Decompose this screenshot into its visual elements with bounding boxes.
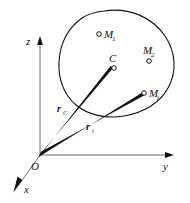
- vector-rC-shaft: [39, 66, 114, 158]
- z-axis: [37, 36, 43, 155]
- x-axis-label: x: [23, 183, 29, 195]
- y-axis-arrowhead: [165, 152, 174, 158]
- point-label-M1-subscript: 1: [112, 35, 116, 43]
- vector-ri-shaft: [39, 93, 145, 157]
- position-vectors: [39, 66, 145, 158]
- vector-label-rC-base: r: [57, 103, 61, 114]
- point-labels: M 1 M 2 C M i: [103, 28, 159, 102]
- point-label-Mi-subscript: i: [157, 94, 159, 102]
- point-label-M1: M 1: [103, 28, 116, 43]
- point-marker-M2: [147, 59, 152, 64]
- point-marker-Mi: [142, 91, 147, 96]
- figure-container: z y x O M 1: [0, 0, 190, 203]
- material-points: [97, 32, 152, 96]
- vector-label-ri-subscript: i: [92, 127, 94, 134]
- y-axis: [40, 152, 174, 158]
- y-axis-label: y: [162, 160, 168, 172]
- vector-label-ri: r i: [86, 121, 94, 134]
- point-label-C-base: C: [109, 52, 117, 64]
- vector-labels: r C r i: [57, 103, 94, 134]
- point-label-M2-subscript: 2: [151, 51, 155, 59]
- z-axis-label: z: [25, 35, 31, 47]
- x-axis-arrowhead: [14, 177, 23, 193]
- point-label-M2: M 2: [142, 44, 155, 59]
- position-vector-diagram: z y x O M 1: [0, 0, 190, 203]
- vector-label-rC: r C: [57, 103, 68, 116]
- point-label-Mi: M i: [148, 87, 159, 102]
- point-marker-C: [112, 66, 117, 71]
- origin-label: O: [31, 160, 39, 172]
- point-marker-M1: [97, 32, 102, 37]
- vector-label-ri-base: r: [86, 121, 90, 132]
- point-label-C: C: [109, 52, 117, 64]
- z-axis-arrowhead: [37, 36, 43, 45]
- vector-label-rC-subscript: C: [63, 109, 68, 116]
